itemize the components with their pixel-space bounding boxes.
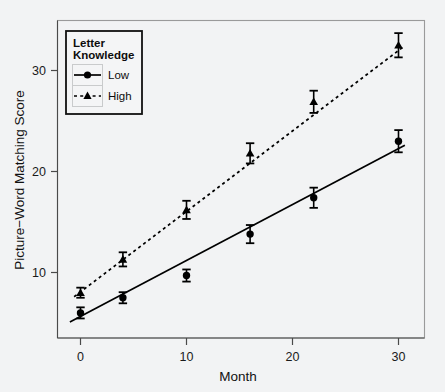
data-point-circle [183,272,190,279]
data-point-circle [310,194,317,201]
data-point-triangle [76,288,85,296]
chart-figure: 30 20 10 0 10 20 30 Month Picture−Word M… [0,0,445,392]
x-tick-label-30: 30 [392,350,406,364]
y-axis-title: Picture−Word Matching Score [12,90,27,269]
legend-label-high[interactable]: High [108,90,132,102]
data-point-triangle [394,41,403,49]
y-tick-label-30: 30 [32,64,46,78]
x-axis-ticks [81,338,399,345]
x-tick-label-20: 20 [286,350,300,364]
legend-title-line-1: Letter [73,37,105,49]
data-point-circle [395,138,402,145]
y-axis-ticks [51,71,58,273]
legend-label-low[interactable]: Low [108,69,130,81]
data-point-circle [119,294,126,301]
chart-canvas: 30 20 10 0 10 20 30 Month Picture−Word M… [0,0,445,392]
y-tick-label-10: 10 [32,266,46,280]
series-low-points [76,130,402,318]
data-point-triangle [119,255,128,263]
data-point-circle [77,309,84,316]
data-point-triangle [246,149,255,157]
x-tick-label-10: 10 [180,350,194,364]
legend-title-line-2: Knowledge [73,49,134,61]
data-point-circle [246,230,253,237]
legend-marker-circle-icon [84,71,91,78]
x-tick-label-0: 0 [77,350,84,364]
y-tick-label-20: 20 [32,165,46,179]
legend[interactable]: Letter Knowledge Low High [66,31,142,114]
x-axis-title: Month [219,369,257,384]
data-point-triangle [309,98,318,106]
